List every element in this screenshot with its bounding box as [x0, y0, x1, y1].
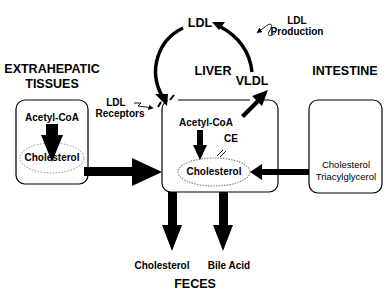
liver-acetyl-coa: Acetyl-CoA — [179, 118, 233, 128]
ldl-label: LDL — [188, 17, 212, 30]
ldl-receptors-label: LDL Receptors — [96, 98, 145, 119]
feces-bile-acid: Bile Acid — [208, 261, 250, 271]
extrahepatic-title-line2: TISSUES — [4, 78, 99, 91]
extrahepatic-title: EXTRAHEPATIC TISSUES — [4, 63, 99, 90]
ldl-receptors-line2: Receptors — [96, 109, 145, 119]
vldl-secretion-arrow — [241, 90, 268, 118]
extrahepatic-cholesterol: Cholesterol — [24, 153, 79, 163]
liver-cholesterol: Cholesterol — [186, 167, 241, 177]
feces-title: FECES — [174, 278, 216, 291]
feces-cholesterol: Cholesterol — [134, 261, 189, 271]
liver-title: LIVER — [195, 65, 232, 78]
diagram-canvas — [0, 0, 390, 296]
excretion-arrow-cholesterol — [162, 192, 182, 251]
extrahepatic-title-line1: EXTRAHEPATIC — [4, 63, 99, 76]
intestine-contents: Cholesterol Triacylglycerol — [316, 160, 376, 181]
vldl-label: VLDL — [236, 75, 269, 88]
ldl-uptake-arrow — [156, 28, 183, 96]
excretion-arrow-bile-acid — [213, 192, 233, 251]
ldl-production-line1: LDL — [271, 16, 324, 26]
ldl-receptors-line1: LDL — [88, 98, 145, 108]
liver-ce: CE — [224, 134, 238, 144]
transport-arrow-from-intestine — [250, 164, 309, 180]
intestine-triacylglycerol: Triacylglycerol — [316, 172, 376, 182]
extrahepatic-acetyl-coa: Acetyl-CoA — [25, 113, 79, 123]
ldl-production-line2: Production — [271, 27, 324, 37]
intestine-title: INTESTINE — [312, 65, 377, 78]
intestine-cholesterol: Cholesterol — [316, 160, 376, 170]
transport-arrow-to-liver — [84, 158, 162, 186]
ce-pointer — [217, 150, 226, 157]
ldl-production-label: LDL Production — [271, 16, 324, 37]
synthesis-arrow-liver — [193, 130, 207, 160]
